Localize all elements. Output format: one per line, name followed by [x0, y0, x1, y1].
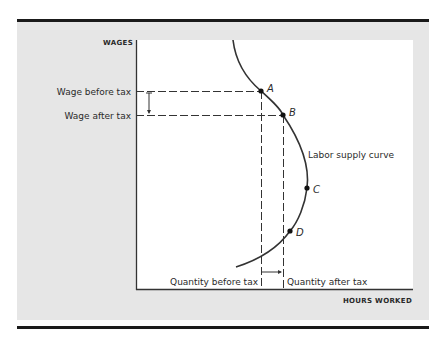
labor-supply-curve-label: Labor supply curve	[308, 150, 394, 160]
quantity-after-label: Quantity after tax	[287, 277, 368, 287]
wage-before-label: Wage before tax	[57, 87, 132, 97]
point-d-label: D	[296, 227, 304, 238]
point-c-label: C	[313, 184, 320, 195]
labor-supply-diagram: WAGES HOURS WORKED Wage before tax Wage …	[0, 0, 446, 341]
quantity-before-label: Quantity before tax	[170, 277, 259, 287]
point-b-marker	[280, 112, 285, 117]
point-c-marker	[304, 185, 309, 190]
point-a-marker	[258, 88, 263, 93]
quantity-change-arrowhead	[278, 270, 282, 274]
y-axis-title: WAGES	[103, 39, 133, 47]
x-axis-title: HOURS WORKED	[343, 297, 412, 305]
wage-change-arrowhead	[147, 110, 151, 114]
point-d-marker	[287, 228, 292, 233]
point-b-label: B	[289, 107, 296, 118]
wage-after-label: Wage after tax	[65, 111, 132, 121]
point-a-label: A	[266, 83, 274, 94]
